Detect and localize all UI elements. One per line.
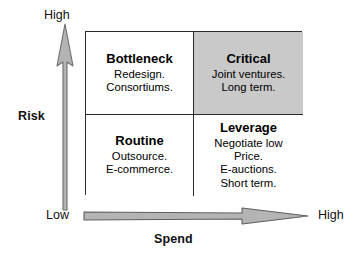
quadrant-action-line: Short term. (214, 177, 282, 190)
quadrant-bottleneck: Bottleneck Redesign. Consortiums. (86, 32, 194, 115)
quadrant-actions: Joint ventures. Long term. (212, 68, 285, 95)
quadrant-leverage: Leverage Negotiate low Price. E-auctions… (194, 115, 303, 196)
quadrant-actions: Redesign. Consortiums. (106, 68, 173, 95)
y-axis-title: Risk (18, 109, 45, 123)
quadrant-action-line: Joint ventures. (212, 68, 285, 81)
quadrant-title: Bottleneck (106, 52, 172, 67)
spend-axis-arrow-icon (82, 206, 310, 226)
x-axis-high-label: High (318, 208, 344, 222)
quadrant-action-line: Redesign. (106, 68, 173, 81)
quadrant-action-line: Long term. (212, 81, 285, 94)
quadrant-actions: Outsource. E-commerce. (106, 150, 173, 177)
quadrant-action-line: E-commerce. (106, 163, 173, 176)
quadrant-action-line: Consortiums. (106, 81, 173, 94)
x-axis-low-label: Low (46, 208, 69, 222)
quadrant-action-line: E-auctions. (214, 163, 282, 176)
risk-axis-arrow-icon (52, 22, 78, 212)
quadrant-title: Critical (226, 52, 270, 67)
quadrant-actions: Negotiate low Price. E-auctions. Short t… (214, 137, 282, 190)
quadrant-critical: Critical Joint ventures. Long term. (194, 32, 303, 115)
x-axis-title: Spend (154, 232, 193, 246)
quadrant-title: Routine (115, 134, 163, 149)
quadrant-routine: Routine Outsource. E-commerce. (86, 115, 194, 196)
quadrant-title: Leverage (220, 121, 277, 136)
quadrant-action-line: Price. (214, 150, 282, 163)
y-axis-high-label: High (44, 8, 70, 22)
quadrant-action-line: Outsource. (106, 150, 173, 163)
matrix-figure: High Risk Low High Spend Bottleneck Rede… (0, 0, 359, 256)
quadrant-grid: Bottleneck Redesign. Consortiums. Critic… (85, 31, 302, 195)
quadrant-action-line: Negotiate low (214, 137, 282, 150)
